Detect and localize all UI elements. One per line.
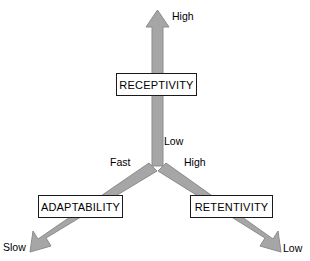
node-retentivity: RETENTIVITY bbox=[190, 195, 273, 218]
label-retentivity-high: High bbox=[184, 156, 206, 168]
label-retentivity-low: Low bbox=[283, 242, 302, 254]
node-receptivity: RECEPTIVITY bbox=[116, 73, 197, 96]
label-adaptability-slow: Slow bbox=[3, 241, 26, 253]
node-receptivity-label: RECEPTIVITY bbox=[119, 79, 193, 91]
diagram-canvas: RECEPTIVITY ADAPTABILITY RETENTIVITY Hig… bbox=[0, 0, 310, 261]
arrows-group bbox=[0, 0, 310, 261]
label-adaptability-fast: Fast bbox=[110, 156, 130, 168]
node-adaptability-label: ADAPTABILITY bbox=[41, 201, 120, 213]
label-receptivity-low: Low bbox=[164, 135, 183, 147]
label-receptivity-high: High bbox=[172, 10, 194, 22]
node-adaptability: ADAPTABILITY bbox=[38, 195, 123, 218]
node-retentivity-label: RETENTIVITY bbox=[195, 201, 269, 213]
